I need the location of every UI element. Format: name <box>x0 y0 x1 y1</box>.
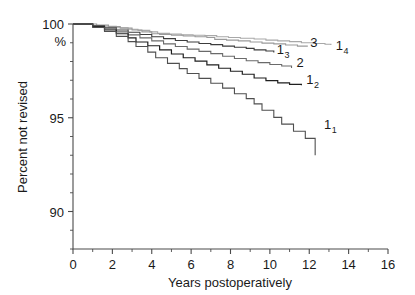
x-tick-label: 10 <box>263 257 277 272</box>
x-tick-label: 6 <box>188 257 195 272</box>
y-tick-label: 90 <box>50 205 64 220</box>
curve-label-subscript-1_2: 2 <box>314 80 319 90</box>
curve-label-subscript-1_3: 3 <box>285 50 290 60</box>
x-tick-label: 2 <box>109 257 116 272</box>
x-tick-label: 12 <box>302 257 316 272</box>
x-tick-label: 14 <box>341 257 355 272</box>
y-tick-label: 95 <box>50 111 64 126</box>
x-axis-title: Years postoperatively <box>168 275 292 290</box>
curve-label-subscript-1_4: 4 <box>344 46 349 56</box>
curve-label-2: 2 <box>296 55 303 70</box>
survival-curve-chart: 0246810121416 9095100 1431321211 Years p… <box>0 0 415 295</box>
x-tick-label: 16 <box>381 257 395 272</box>
curve-label-subscript-1_1: 1 <box>332 125 337 135</box>
chart-figure: 0246810121416 9095100 1431321211 Years p… <box>0 0 415 295</box>
y-axis-unit-label: % <box>54 34 66 49</box>
x-tick-label: 8 <box>227 257 234 272</box>
x-tick-label: 0 <box>69 257 76 272</box>
curve-label-3: 3 <box>310 35 317 50</box>
y-tick-label: 100 <box>42 17 64 32</box>
y-axis-title: Percent not revised <box>15 81 30 193</box>
x-tick-label: 4 <box>148 257 155 272</box>
